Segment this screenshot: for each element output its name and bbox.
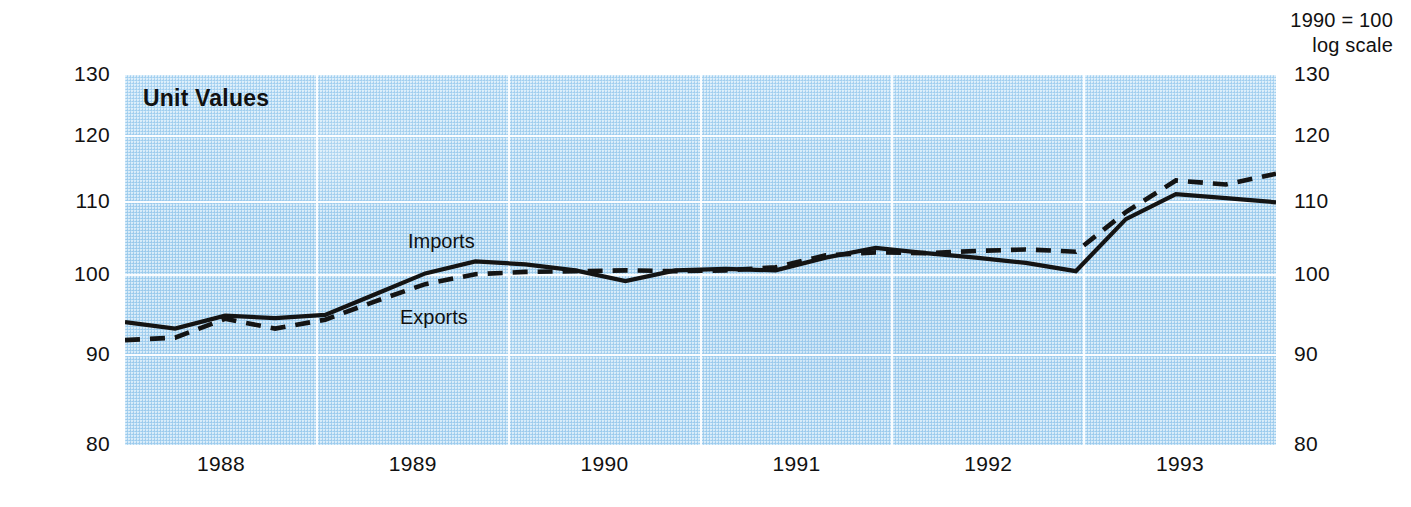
x-axis-label-1991: 1991 [736, 452, 856, 476]
scale-note: 1990 = 100 log scale [1290, 8, 1393, 58]
series-label-exports: Exports [400, 306, 468, 329]
chart-figure: 1990 = 100 log scale 130 120 110 100 90 … [0, 0, 1411, 507]
series-lines [125, 75, 1276, 445]
line-imports [125, 194, 1276, 329]
y-axis-label-left-100: 100 [48, 262, 110, 286]
plot-area: Unit Values Imports Exports [125, 75, 1276, 445]
x-axis-label-1989: 1989 [353, 452, 473, 476]
x-axis-label-1990: 1990 [545, 452, 665, 476]
y-axis-label-left-90: 90 [48, 342, 110, 366]
x-axis-label-1993: 1993 [1120, 452, 1240, 476]
y-axis-label-left-80: 80 [48, 432, 110, 456]
x-axis-label-1988: 1988 [161, 452, 281, 476]
y-axis-label-right-110: 110 [1294, 189, 1356, 213]
y-axis-label-right-130: 130 [1294, 62, 1356, 86]
scale-note-line2: log scale [1290, 33, 1393, 58]
x-axis-label-1992: 1992 [928, 452, 1048, 476]
y-axis-label-left-110: 110 [48, 189, 110, 213]
y-axis-label-left-120: 120 [48, 123, 110, 147]
y-axis-label-left-130: 130 [48, 62, 110, 86]
series-label-imports: Imports [408, 230, 475, 253]
y-axis-label-right-100: 100 [1294, 262, 1356, 286]
y-axis-label-right-120: 120 [1294, 123, 1356, 147]
chart-title: Unit Values [143, 85, 269, 112]
scale-note-line1: 1990 = 100 [1290, 8, 1393, 33]
y-axis-label-right-90: 90 [1294, 342, 1356, 366]
y-axis-label-right-80: 80 [1294, 432, 1356, 456]
